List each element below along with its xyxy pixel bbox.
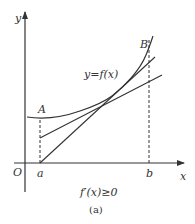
condition-label: f′(x)≥0: [79, 186, 118, 199]
derivative-diagram: y x O a b A B y=f(x) f′(x)≥0 (a): [0, 0, 195, 224]
y-axis-label: y: [14, 12, 22, 25]
tick-label-a: a: [37, 167, 44, 180]
origin-label: O: [13, 166, 22, 179]
point-label-b: B: [139, 38, 148, 51]
x-axis-label: x: [180, 170, 187, 183]
tangent-line-shallow: [40, 75, 162, 138]
function-label: y=f(x): [83, 68, 118, 81]
point-label-a: A: [37, 103, 46, 116]
tick-label-b: b: [146, 167, 153, 180]
caption-label: (a): [89, 204, 103, 215]
